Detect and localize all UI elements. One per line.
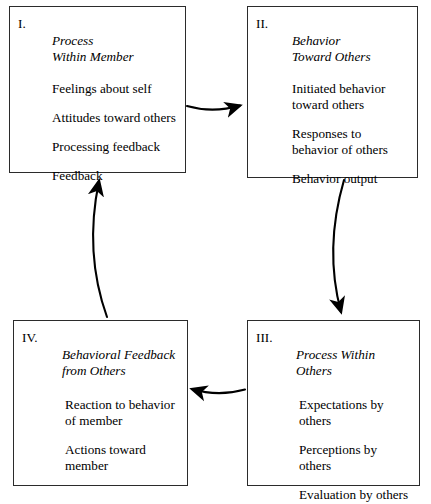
box-2-item: Behavior output [292,171,411,187]
box-3-items: Expectations by others Perceptions by ot… [256,397,413,504]
box-2-title-text: Behavior Toward Others [292,33,371,65]
box-4-title: IV.Behavioral Feedback from Others [22,330,181,380]
box-4-title-text: Behavioral Feedback from Others [62,347,175,379]
arrow-box4-to-box1 [93,181,107,317]
box-4-numeral: IV. [22,330,38,347]
arrow-box3-to-box4 [192,389,245,393]
box-1-item: Processing feedback [52,139,179,155]
box-3-item: Evaluation by others [299,487,413,503]
box-1-items: Feelings about self Attitudes toward oth… [18,81,179,185]
box-2-item: Initiated behavior toward others [292,81,411,113]
box-1-title-text: Process Within Member [52,33,134,65]
box-1-item: Feedback [52,168,179,184]
box-1-title: I.Process Within Member [18,16,179,66]
box-1-item: Feelings about self [52,81,179,97]
box-3-item: Perceptions by others [299,442,413,474]
box-1-numeral: I. [18,16,26,33]
box-4-item: Actions toward member [65,442,181,474]
box-process-within-others: III.Process Within Others Expectations b… [247,320,420,486]
box-4-items: Reaction to behavior of member Actions t… [22,397,181,475]
box-2-items: Initiated behavior toward others Respons… [256,81,411,188]
box-process-within-member: I.Process Within Member Feelings about s… [9,6,186,173]
box-3-numeral: III. [256,330,272,347]
box-1-item: Attitudes toward others [52,110,179,126]
box-behavior-toward-others: II.Behavior Toward Others Initiated beha… [247,6,418,178]
arrow-box1-to-box2 [187,106,240,110]
box-2-title: II.Behavior Toward Others [256,16,411,66]
arrow-box2-to-box3 [333,180,344,312]
box-behavioral-feedback-from-others: IV.Behavioral Feedback from Others React… [13,320,188,486]
box-3-title: III.Process Within Others [256,330,413,380]
box-3-item: Expectations by others [299,397,413,429]
box-2-item: Responses to behavior of others [292,126,411,158]
box-4-item: Reaction to behavior of member [65,397,181,429]
box-2-numeral: II. [256,16,268,33]
box-3-title-text: Process Within Others [296,347,375,379]
